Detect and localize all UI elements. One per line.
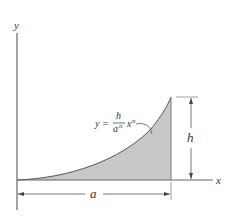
y-axis-label: y — [13, 19, 19, 31]
equation-denominator-base: a — [113, 123, 118, 134]
area-under-curve-diagram: y x h a y = h a n x n — [0, 0, 230, 224]
x-axis-label: x — [215, 174, 221, 186]
a-arrow-right-icon — [164, 192, 170, 196]
h-dimension-label: h — [187, 130, 194, 145]
h-arrow-down-icon — [189, 173, 193, 179]
shaded-area — [17, 97, 171, 180]
h-arrow-up-icon — [189, 98, 193, 104]
a-arrow-left-icon — [18, 192, 24, 196]
equation-lhs: y = — [94, 118, 109, 129]
equation-numerator: h — [116, 110, 121, 121]
equation-denominator-exp: n — [119, 122, 123, 130]
curve-equation: y = h a n x n — [94, 110, 136, 134]
equation-var-exp: n — [132, 117, 136, 125]
a-dimension-label: a — [90, 186, 97, 201]
